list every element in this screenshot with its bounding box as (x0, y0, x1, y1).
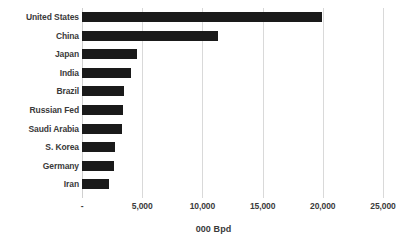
x-axis-tick-25000: 25,000 (370, 201, 395, 211)
x-axis-tick-10000: 10,000 (190, 201, 215, 211)
bar (82, 49, 137, 59)
x-axis-tick-20000: 20,000 (310, 201, 335, 211)
x-axis-tick-5000: 5,000 (132, 201, 153, 211)
y-axis-label-brazil: Brazil (0, 82, 79, 101)
y-axis-label-india: India (0, 64, 79, 83)
bar-chart: United StatesChinaJapanIndiaBrazilRussia… (0, 0, 415, 245)
bar (82, 31, 218, 41)
bar (82, 142, 115, 152)
bar (82, 86, 124, 96)
bar-row (82, 157, 383, 176)
bar (82, 161, 114, 171)
x-axis-tick-0: - (81, 201, 84, 211)
bar-row (82, 175, 383, 194)
y-axis-label-iran: Iran (0, 175, 79, 194)
y-axis-category-labels: United StatesChinaJapanIndiaBrazilRussia… (0, 8, 79, 198)
y-axis-label-china: China (0, 27, 79, 46)
bar (82, 179, 109, 189)
y-axis-label-japan: Japan (0, 45, 79, 64)
bar (82, 105, 123, 115)
bar (82, 124, 122, 134)
bar-row (82, 101, 383, 120)
y-axis-label-s-korea: S. Korea (0, 138, 79, 157)
plot-area (82, 8, 383, 198)
x-axis-tick-15000: 15,000 (250, 201, 275, 211)
x-axis-tick-labels: -5,00010,00015,00020,00025,000 (0, 201, 415, 217)
y-axis-label-united-states: United States (0, 8, 79, 27)
bar-row (82, 45, 383, 64)
x-axis-title-text: 000 Bpd (196, 224, 232, 234)
bar-row (82, 82, 383, 101)
x-axis-title: 000 Bpd (0, 224, 415, 234)
bar-row (82, 8, 383, 27)
bar-row (82, 64, 383, 83)
bar-row (82, 138, 383, 157)
y-axis-label-saudi-arabia: Saudi Arabia (0, 120, 79, 139)
gridline-25000 (383, 8, 384, 198)
bar-row (82, 120, 383, 139)
y-axis-label-russian-fed: Russian Fed (0, 101, 79, 120)
bar-row (82, 27, 383, 46)
y-axis-label-germany: Germany (0, 157, 79, 176)
bar (82, 68, 131, 78)
bar (82, 12, 322, 22)
bar-series (82, 8, 383, 198)
